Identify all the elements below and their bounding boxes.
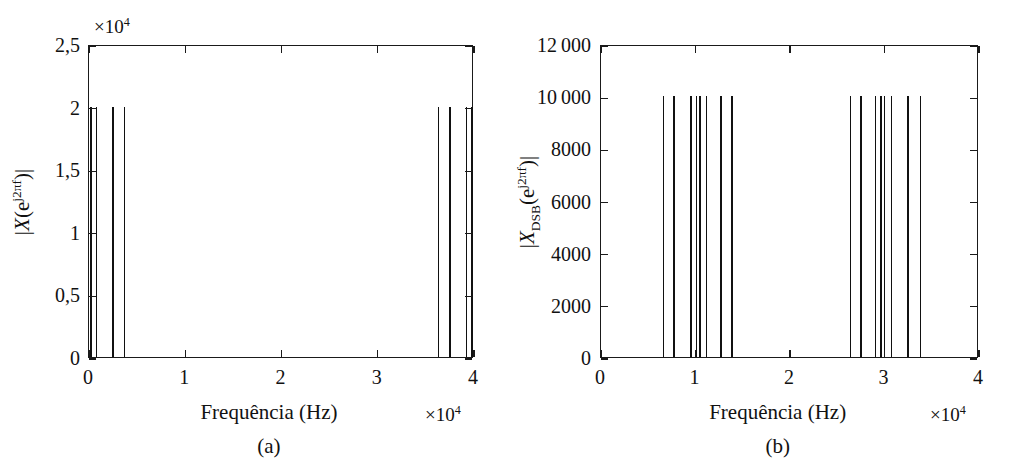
x-tick-label: 0 bbox=[83, 367, 93, 387]
y-tick-label: 0,5 bbox=[55, 285, 80, 305]
x-tick-top bbox=[473, 46, 474, 53]
x-tick bbox=[377, 350, 378, 357]
spectral-line bbox=[699, 96, 701, 357]
spectral-line bbox=[731, 96, 733, 357]
y-tick bbox=[89, 171, 96, 172]
y-tick-label: 1 bbox=[70, 223, 80, 243]
plot-area-a bbox=[88, 45, 473, 358]
panel-b: |XDSB(ej2πf)| Frequência (Hz) ×104 (b) 0… bbox=[505, 0, 1010, 476]
spectral-line bbox=[875, 96, 877, 357]
y-tick-right bbox=[465, 358, 472, 359]
spectral-line bbox=[690, 96, 692, 357]
x-tick bbox=[185, 350, 186, 357]
spectral-line bbox=[673, 96, 675, 357]
spectral-line bbox=[920, 96, 922, 357]
spectral-line bbox=[438, 107, 440, 357]
x-tick-top bbox=[695, 46, 696, 53]
spectral-line bbox=[663, 96, 665, 357]
spectral-line bbox=[471, 107, 473, 357]
y-tick bbox=[601, 150, 608, 151]
x-tick-label: 3 bbox=[879, 367, 889, 387]
y-tick bbox=[89, 45, 96, 46]
y-tick-label: 1,5 bbox=[55, 160, 80, 180]
x-multiplier-b: ×104 bbox=[930, 403, 966, 426]
x-tick-label: 4 bbox=[468, 367, 478, 387]
y-tick-label: 2,5 bbox=[55, 35, 80, 55]
y-tick bbox=[89, 296, 96, 297]
x-axis-title-b: Frequência (Hz) bbox=[709, 400, 846, 425]
spectral-line bbox=[850, 96, 852, 357]
y-tick-right bbox=[970, 98, 977, 99]
plot-area-b bbox=[600, 45, 978, 358]
spectral-line bbox=[696, 96, 698, 357]
panel-caption-b: (b) bbox=[765, 434, 790, 459]
y-tick bbox=[89, 233, 96, 234]
y-tick-right bbox=[465, 296, 472, 297]
y-tick-label: 2 bbox=[70, 98, 80, 118]
x-tick-label: 2 bbox=[276, 367, 286, 387]
spectral-line bbox=[880, 96, 882, 357]
y-tick-right bbox=[970, 150, 977, 151]
spectral-line bbox=[720, 96, 722, 357]
spectral-line bbox=[907, 96, 909, 357]
y-tick-label: 0 bbox=[581, 348, 591, 368]
spectral-line bbox=[112, 107, 114, 357]
y-tick-label: 6000 bbox=[551, 192, 591, 212]
y-tick-right bbox=[970, 202, 977, 203]
x-tick-label: 1 bbox=[179, 367, 189, 387]
spectral-line bbox=[884, 96, 886, 357]
y-tick bbox=[601, 254, 608, 255]
x-tick-top bbox=[884, 46, 885, 53]
spectral-line bbox=[466, 107, 468, 357]
x-tick-top bbox=[185, 46, 186, 53]
x-tick-label: 3 bbox=[372, 367, 382, 387]
x-tick-top bbox=[88, 46, 89, 53]
y-tick-right bbox=[970, 306, 977, 307]
y-tick bbox=[601, 98, 608, 99]
y-tick bbox=[601, 306, 608, 307]
y-axis-title-a: |X(ej2πf)| bbox=[9, 168, 35, 234]
y-tick-label: 8000 bbox=[551, 139, 591, 159]
spectral-line bbox=[860, 96, 862, 357]
y-tick bbox=[601, 358, 608, 359]
y-axis-title-b: |XDSB(ej2πf)| bbox=[514, 155, 543, 247]
y-tick bbox=[601, 202, 608, 203]
y-tick-right bbox=[970, 254, 977, 255]
y-tick-right bbox=[465, 108, 472, 109]
spectral-line bbox=[90, 107, 92, 357]
x-tick bbox=[789, 350, 790, 357]
y-tick bbox=[89, 108, 96, 109]
panel-a: ×104 |X(ej2πf)| Frequência (Hz) ×104 (a)… bbox=[0, 0, 505, 476]
x-axis-title-a: Frequência (Hz) bbox=[200, 400, 337, 425]
x-tick bbox=[600, 350, 601, 357]
x-tick bbox=[978, 350, 979, 357]
y-tick bbox=[89, 358, 96, 359]
panel-caption-a: (a) bbox=[257, 434, 280, 459]
spectral-line bbox=[449, 107, 451, 357]
x-tick bbox=[695, 350, 696, 357]
spectral-line bbox=[96, 107, 98, 357]
x-tick-label: 2 bbox=[784, 367, 794, 387]
spectral-line bbox=[124, 107, 126, 357]
y-tick bbox=[601, 45, 608, 46]
x-tick-top bbox=[281, 46, 282, 53]
y-tick-label: 4000 bbox=[551, 244, 591, 264]
y-tick-label: 12 000 bbox=[537, 35, 591, 55]
x-tick-label: 0 bbox=[595, 367, 605, 387]
spectral-line bbox=[891, 96, 893, 357]
x-tick bbox=[884, 350, 885, 357]
x-tick-top bbox=[377, 46, 378, 53]
x-tick bbox=[473, 350, 474, 357]
x-tick-top bbox=[600, 46, 601, 53]
y-tick-right bbox=[970, 45, 977, 46]
y-tick-right bbox=[465, 45, 472, 46]
x-tick-label: 4 bbox=[973, 367, 983, 387]
x-tick-label: 1 bbox=[690, 367, 700, 387]
x-tick-top bbox=[789, 46, 790, 53]
spectral-line bbox=[706, 96, 708, 357]
y-tick-label: 0 bbox=[70, 348, 80, 368]
y-tick-right bbox=[465, 171, 472, 172]
x-tick bbox=[88, 350, 89, 357]
y-tick-label: 2000 bbox=[551, 296, 591, 316]
x-tick-top bbox=[978, 46, 979, 53]
